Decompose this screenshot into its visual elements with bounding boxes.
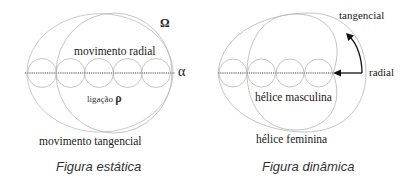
static-figure [25,13,175,133]
omega-label: Ω [160,16,170,31]
radial-label: radial [369,66,394,78]
tangential-arrow-line [350,37,362,73]
dynamic-figure-caption: Figura dinâmica [262,159,355,174]
male-helix-label: hélice masculina [255,91,332,103]
binding-label: ligação ρ [87,91,122,106]
female-helix-label: hélice feminina [256,133,327,145]
tangential-label: tangencial [339,9,384,21]
tangential-motion-label: movimento tangencial [39,135,142,147]
static-figure-caption: Figura estática [56,159,141,174]
radial-motion-label: movimento radial [74,45,155,57]
diagram-canvas [0,0,410,180]
alpha-label: α [178,64,185,80]
rho-symbol: ρ [115,91,121,105]
binding-text: ligação [87,94,113,104]
tangential-arrowhead-icon [346,31,355,41]
